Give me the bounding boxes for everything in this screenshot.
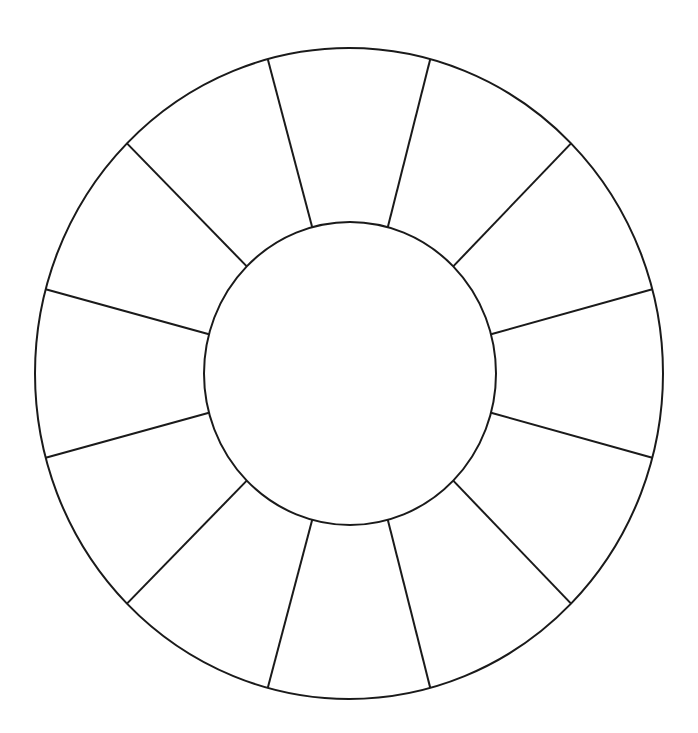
segment-divider-line-6 bbox=[388, 520, 430, 688]
segment-divider-line-2 bbox=[453, 143, 571, 266]
segment-divider-line-10 bbox=[46, 289, 209, 334]
segment-divider-line-9 bbox=[46, 413, 209, 458]
segment-divider-line-1 bbox=[388, 59, 430, 227]
segment-divider-line-3 bbox=[491, 289, 652, 334]
segment-divider-line-11 bbox=[127, 143, 247, 266]
inner-circle bbox=[204, 222, 496, 525]
segment-divider-line-8 bbox=[127, 481, 247, 604]
segment-divider-line-5 bbox=[453, 481, 571, 604]
segment-divider-line-7 bbox=[268, 520, 312, 688]
segment-divider-line-12 bbox=[268, 59, 312, 227]
color-wheel-diagram bbox=[0, 0, 698, 733]
segment-divider-line-4 bbox=[491, 413, 652, 458]
